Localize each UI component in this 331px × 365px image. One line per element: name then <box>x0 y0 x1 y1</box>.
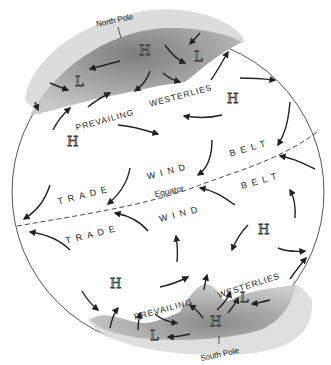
high-pressure-marker: H <box>227 91 238 106</box>
wind-belts-diagram: North Pole PREVAILING WESTERLIES TRADE W… <box>0 0 331 365</box>
high-pressure-marker: H <box>67 134 78 149</box>
high-pressure-marker: H <box>139 43 150 58</box>
low-pressure-marker: L <box>75 74 84 89</box>
high-pressure-marker: H <box>258 222 269 237</box>
low-pressure-marker: L <box>194 49 203 64</box>
high-pressure-marker: H <box>110 276 121 291</box>
high-pressure-marker: H <box>210 314 221 329</box>
low-pressure-marker: L <box>240 290 249 305</box>
low-pressure-marker: L <box>150 328 159 343</box>
